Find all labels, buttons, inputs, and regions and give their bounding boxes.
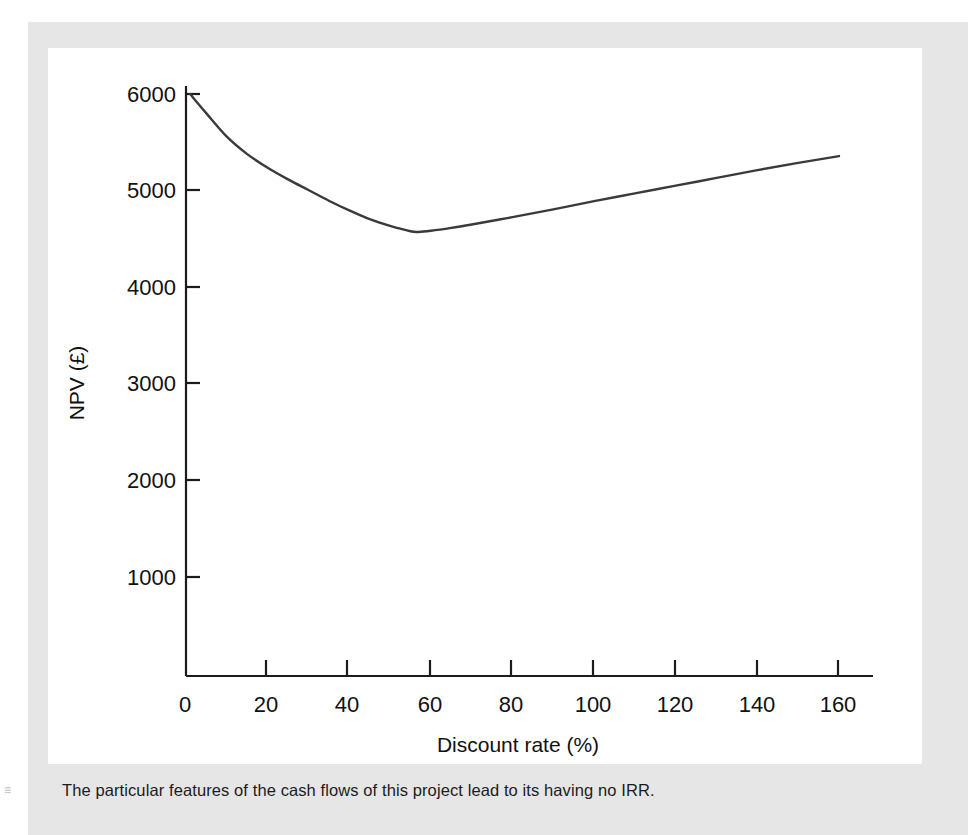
y-tick-label-3000: 3000 [127,371,176,396]
npv-curve-line [190,94,839,232]
npv-discount-rate-chart: 6000 5000 4000 3000 2000 1000 0 20 40 60… [48,48,922,764]
x-axis-title: Discount rate (%) [437,733,599,756]
figure-caption: The particular features of the cash flow… [62,781,922,800]
x-axis-ticks [266,660,838,676]
y-tick-label-1000: 1000 [127,565,176,590]
y-tick-label-6000: 6000 [127,82,176,107]
y-axis-ticks [186,94,200,577]
figure-edge-marker: ≡ [4,786,13,802]
x-tick-label-140: 140 [739,692,776,717]
x-tick-label-0: 0 [179,692,191,717]
x-tick-label-20: 20 [254,692,278,717]
x-tick-label-40: 40 [335,692,359,717]
figure-panel: 6000 5000 4000 3000 2000 1000 0 20 40 60… [48,48,922,764]
x-tick-label-120: 120 [657,692,694,717]
x-tick-label-160: 160 [820,692,857,717]
x-tick-label-80: 80 [499,692,523,717]
y-tick-label-4000: 4000 [127,275,176,300]
x-tick-label-60: 60 [418,692,442,717]
page-root: 6000 5000 4000 3000 2000 1000 0 20 40 60… [0,0,968,835]
y-tick-label-5000: 5000 [127,178,176,203]
y-tick-label-2000: 2000 [127,468,176,493]
y-axis-title: NPV (£) [65,346,88,421]
x-tick-label-100: 100 [575,692,612,717]
